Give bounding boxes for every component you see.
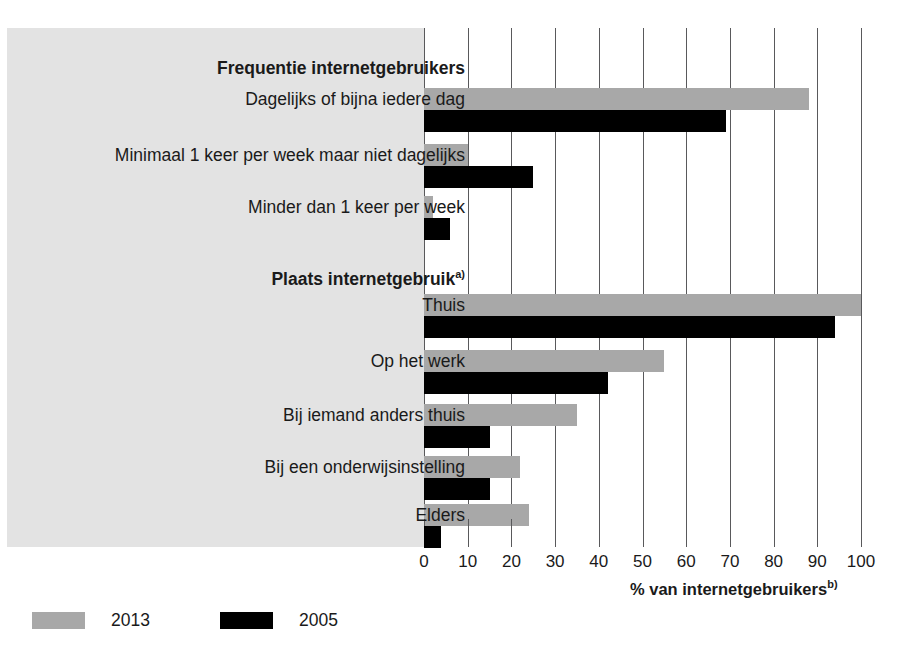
legend-entry: 2005 — [220, 610, 338, 631]
tick-60 — [686, 519, 687, 526]
x-tick-label: 80 — [754, 552, 794, 572]
x-tick-label: 0 — [404, 552, 444, 572]
group-heading: Frequentie internetgebruikers — [217, 58, 473, 79]
bar-2005 — [424, 316, 835, 338]
category-label: Thuis — [422, 295, 473, 316]
bar-2013 — [424, 294, 861, 316]
legend-label: 2005 — [299, 610, 338, 631]
tick-70 — [730, 519, 731, 526]
legend-entry: 2013 — [32, 610, 150, 631]
plot-area — [424, 28, 861, 547]
x-tick-label: 10 — [448, 552, 488, 572]
x-tick-label: 100 — [841, 552, 881, 572]
tick-90 — [817, 519, 818, 526]
group-heading: Plaats internetgebruika) — [271, 268, 473, 290]
category-label: Dagelijks of bijna iedere dag — [245, 89, 473, 110]
gridline-90 — [817, 28, 818, 547]
gridline-100 — [861, 28, 862, 547]
bar-2005 — [424, 110, 726, 132]
axis-footnote-marker: b) — [827, 578, 837, 590]
x-tick-label: 20 — [491, 552, 531, 572]
legend-swatch — [32, 612, 85, 629]
category-label: Minder dan 1 keer per week — [248, 197, 473, 218]
chart-figure: 0102030405060708090100 Dagelijks of bijn… — [0, 0, 897, 646]
x-tick-label: 90 — [797, 552, 837, 572]
x-tick-label: 60 — [666, 552, 706, 572]
category-label: Op het werk — [371, 351, 473, 372]
x-tick-label: 40 — [579, 552, 619, 572]
category-label: Bij een onderwijsinstelling — [265, 457, 473, 478]
x-axis-label: % van internetgebruikersb) — [630, 578, 838, 599]
bar-2013 — [424, 88, 809, 110]
tick-20 — [511, 519, 512, 526]
category-label: Bij iemand anders thuis — [283, 405, 473, 426]
tick-50 — [643, 519, 644, 526]
bar-2005 — [424, 218, 450, 240]
bar-2005 — [424, 426, 490, 448]
heading-footnote-marker: a) — [455, 268, 465, 280]
category-label: Minimaal 1 keer per week maar niet dagel… — [115, 145, 473, 166]
bar-2005 — [424, 166, 533, 188]
x-tick-label: 70 — [710, 552, 750, 572]
bar-2005 — [424, 478, 490, 500]
tick-40 — [599, 519, 600, 526]
x-tick-label: 50 — [623, 552, 663, 572]
x-tick-label: 30 — [535, 552, 575, 572]
legend-swatch — [220, 612, 273, 629]
legend-label: 2013 — [111, 610, 150, 631]
bar-2005 — [424, 372, 608, 394]
tick-30 — [555, 519, 556, 526]
bar-2005 — [424, 526, 441, 548]
tick-100 — [861, 519, 862, 526]
legend: 20132005 — [32, 610, 408, 631]
category-label: Elders — [415, 505, 473, 526]
tick-80 — [774, 519, 775, 526]
